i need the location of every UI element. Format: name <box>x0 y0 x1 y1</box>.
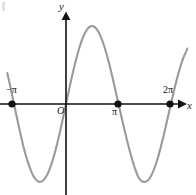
origin-label: O <box>57 106 64 116</box>
point-neg-pi <box>8 100 15 107</box>
y-axis-label: y <box>59 1 64 12</box>
tick-label-neg-pi: −π <box>6 85 17 95</box>
coordinate-plot <box>0 0 196 195</box>
y-axis-arrowhead <box>62 12 71 21</box>
point-two-pi <box>166 100 173 107</box>
tick-label-two-pi: 2π <box>163 85 173 95</box>
x-axis-label: x <box>187 100 192 111</box>
graph-figure: y x O −π π 2π <box>0 0 196 195</box>
x-axis-arrowhead <box>178 100 187 109</box>
tick-label-pi: π <box>112 107 117 117</box>
x-axis <box>0 100 187 109</box>
